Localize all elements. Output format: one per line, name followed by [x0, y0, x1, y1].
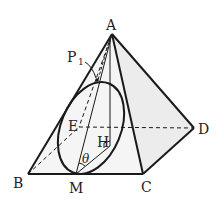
pyramid-diagram: A B C D E M H P 1 θ [0, 0, 219, 203]
label-E: E [68, 118, 78, 134]
label-P-subscript: 1 [78, 57, 84, 67]
label-H: H [97, 134, 109, 150]
label-C: C [141, 179, 152, 195]
label-A: A [105, 17, 117, 33]
label-theta: θ [82, 152, 90, 166]
label-D: D [198, 121, 209, 137]
label-M: M [69, 180, 83, 196]
label-B: B [13, 175, 23, 191]
point-P1 [95, 78, 99, 82]
label-P: P [67, 49, 76, 65]
